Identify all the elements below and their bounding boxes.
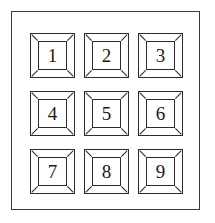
- keypad-key-label: 9: [156, 162, 166, 181]
- keypad-key-face: 3: [146, 41, 175, 70]
- keypad-key-8[interactable]: 8: [84, 149, 129, 194]
- keypad-key-5[interactable]: 5: [84, 91, 129, 136]
- keypad-key-2[interactable]: 2: [84, 33, 129, 78]
- keypad-key-label: 1: [48, 46, 58, 65]
- keypad-faceplate: 1 2: [11, 11, 200, 210]
- keypad-key-label: 8: [102, 162, 112, 181]
- keypad-key-label: 4: [48, 104, 58, 123]
- keypad-key-face: 8: [92, 157, 121, 186]
- keypad-key-grid: 1 2: [30, 33, 183, 194]
- keypad-key-6[interactable]: 6: [138, 91, 183, 136]
- keypad-key-face: 6: [146, 99, 175, 128]
- keypad-key-label: 2: [102, 46, 112, 65]
- keypad-key-face: 5: [92, 99, 121, 128]
- keypad-key-label: 5: [102, 104, 112, 123]
- keypad-key-9[interactable]: 9: [138, 149, 183, 194]
- keypad-key-face: 7: [38, 157, 67, 186]
- keypad-key-face: 2: [92, 41, 121, 70]
- keypad-key-label: 3: [156, 46, 166, 65]
- keypad-key-face: 1: [38, 41, 67, 70]
- keypad-key-face: 4: [38, 99, 67, 128]
- keypad-key-1[interactable]: 1: [30, 33, 75, 78]
- keypad-key-label: 7: [48, 162, 58, 181]
- keypad-key-label: 6: [156, 104, 166, 123]
- keypad-key-4[interactable]: 4: [30, 91, 75, 136]
- keypad-key-7[interactable]: 7: [30, 149, 75, 194]
- keypad-key-3[interactable]: 3: [138, 33, 183, 78]
- keypad-key-face: 9: [146, 157, 175, 186]
- keypad-diagram: 1 2: [0, 0, 215, 223]
